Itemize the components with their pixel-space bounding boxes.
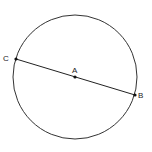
point-b — [133, 93, 136, 96]
label-a: A — [72, 66, 78, 75]
circle-diagram: C A B — [0, 0, 152, 152]
point-a — [73, 75, 76, 78]
point-c — [14, 57, 17, 60]
label-c: C — [3, 54, 9, 63]
label-b: B — [138, 91, 143, 100]
